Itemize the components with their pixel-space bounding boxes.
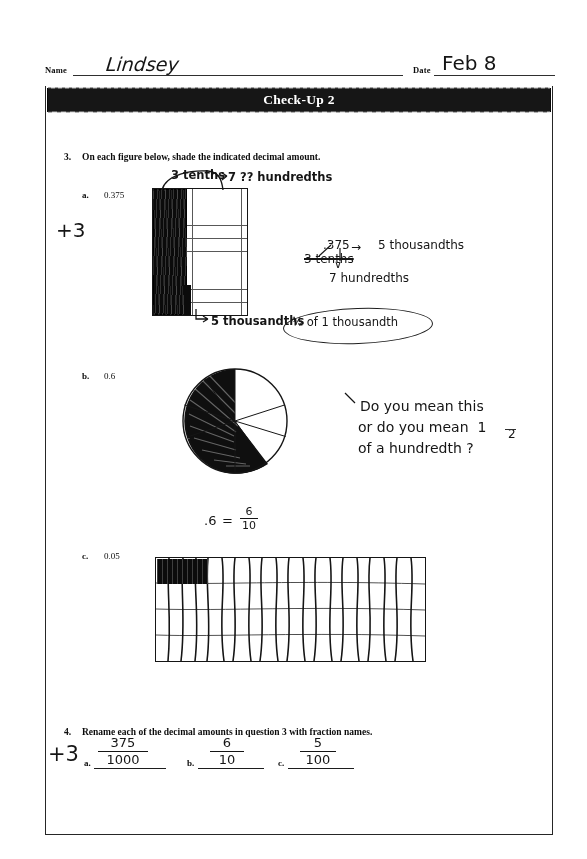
- figure-3a-shaded-region: [153, 189, 187, 315]
- student-equation-denominator: 10: [240, 520, 258, 532]
- question-4c-numerator: 5: [300, 736, 336, 750]
- student-equation-numerator: 6: [240, 506, 258, 517]
- figure-3b-circle-ten-sectors: [180, 366, 290, 476]
- question-4b-answer-fraction: 6 10: [210, 736, 244, 767]
- question-4b-denominator: 10: [210, 753, 244, 767]
- teacher-diagonal-stroke: [318, 244, 340, 258]
- question-4b-numerator: 6: [210, 736, 244, 750]
- question-4b-letter: b.: [187, 758, 194, 768]
- name-label: Name: [45, 65, 67, 75]
- name-date-row: Name Lindsey Date Feb 8: [45, 55, 555, 81]
- teacher-note-5-thousandths: 5 thousandths: [378, 238, 464, 252]
- date-label: Date: [413, 65, 431, 75]
- name-rule: [73, 75, 403, 76]
- student-label-7-hundredths: 7 ?? hundredths: [228, 170, 332, 184]
- teacher-down-arrow: ∨: [334, 258, 342, 271]
- page-title: Check-Up 2: [48, 89, 550, 111]
- teacher-comment-fraction-bar: [505, 429, 516, 430]
- question-4c-denominator: 100: [300, 753, 336, 767]
- figure-3a-ten-by-ten-grid: [152, 188, 248, 316]
- teacher-comment-line-2: or do you mean 1: [358, 419, 486, 435]
- teacher-circled-note: ½ of 1 thousandth: [292, 315, 398, 329]
- teacher-comment-line-3: of a hundredth ?: [358, 440, 474, 456]
- teacher-note-7-hundredths: 7 hundredths: [329, 271, 409, 285]
- student-equation-fraction: 6 10: [240, 506, 258, 532]
- question-4c-letter: c.: [278, 758, 284, 768]
- question-3-number: 3.: [64, 152, 71, 162]
- question-4a-denominator: 1000: [98, 753, 148, 767]
- question-4c-answer-fraction: 5 100: [300, 736, 336, 767]
- teacher-comment-line-1: Do you mean this: [360, 398, 484, 414]
- question-3b-letter: b.: [82, 371, 89, 381]
- question-3c-value: 0.05: [104, 551, 120, 561]
- question-4a-answer-line: [94, 768, 166, 769]
- question-4a-answer-fraction: 375 1000: [98, 736, 148, 767]
- question-4b-answer-line: [198, 768, 264, 769]
- teacher-score-bottom: +3: [48, 742, 79, 766]
- teacher-comment-pointer: [344, 392, 360, 408]
- date-rule: [434, 75, 555, 76]
- teacher-score-top: +3: [56, 218, 85, 242]
- question-3a-letter: a.: [82, 190, 89, 200]
- question-3a-value: 0.375: [104, 190, 124, 200]
- figure-3c-wide-rectangle-grid: [155, 557, 426, 662]
- figure-3a-shaded-partial-cell: [184, 285, 191, 315]
- name-handwritten-value: Lindsey: [105, 53, 180, 75]
- student-equation-decimal: .6: [204, 513, 216, 528]
- figure-3c-shaded-region: [157, 559, 208, 584]
- question-3b-value: 0.6: [104, 371, 115, 381]
- question-4-number: 4.: [64, 727, 71, 737]
- question-4c-answer-line: [288, 768, 354, 769]
- date-handwritten-value: Feb 8: [442, 51, 497, 75]
- question-4a-letter: a.: [84, 758, 91, 768]
- student-equation-equals: =: [222, 513, 233, 528]
- question-3-text: On each figure below, shade the indicate…: [82, 152, 320, 162]
- question-3c-letter: c.: [82, 551, 88, 561]
- worksheet-page: Name Lindsey Date Feb 8 Check-Up 2 3. On…: [0, 0, 587, 859]
- question-4a-numerator: 375: [98, 736, 148, 750]
